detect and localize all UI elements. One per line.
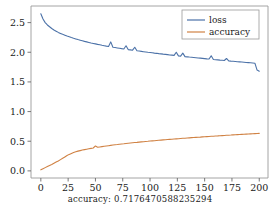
y-tick-label: 2.0 — [10, 47, 25, 58]
y-tick-label: 1.0 — [10, 106, 25, 117]
chart-canvas: 0255075100125150175200 0.00.51.01.52.02.… — [0, 0, 280, 217]
accuracy-caption: accuracy: 0.7176470588235294 — [0, 194, 280, 204]
figure-container: 0255075100125150175200 0.00.51.01.52.02.… — [0, 0, 280, 217]
x-tick-label: 50 — [89, 182, 101, 193]
x-tick-label: 100 — [141, 182, 159, 193]
x-tick-label: 200 — [250, 182, 268, 193]
x-tick-label: 25 — [62, 182, 74, 193]
y-tick-label: 0.0 — [10, 165, 25, 176]
x-tick-label: 75 — [117, 182, 129, 193]
y-tick-label: 0.5 — [10, 136, 25, 147]
x-tick-labels: 0255075100125150175200 — [38, 182, 269, 193]
x-tick-label: 175 — [223, 182, 241, 193]
y-tick-label: 2.5 — [10, 17, 25, 28]
x-tick-label: 150 — [196, 182, 214, 193]
x-tick-label: 0 — [38, 182, 44, 193]
y-tick-label: 1.5 — [10, 76, 25, 87]
legend-label-loss: loss — [209, 15, 227, 25]
x-tick-label: 125 — [168, 182, 186, 193]
legend-label-accuracy: accuracy — [209, 27, 251, 37]
chart-legend: lossaccuracy — [182, 10, 259, 39]
